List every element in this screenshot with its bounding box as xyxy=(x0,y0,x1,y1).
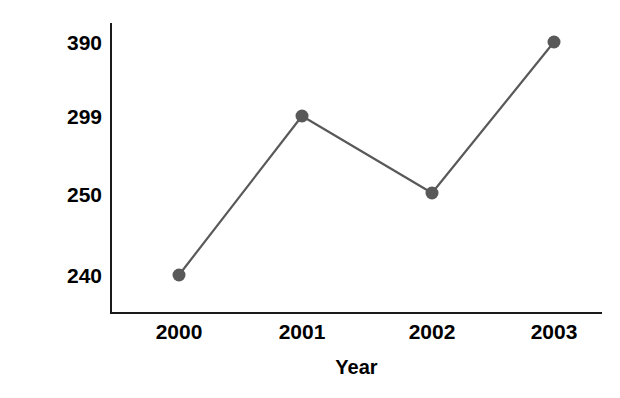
line-chart: Number of Students Voting 390 299 250 24… xyxy=(0,0,620,398)
data-point-markers xyxy=(173,36,561,282)
x-tick-label: 2001 xyxy=(247,321,357,342)
data-point xyxy=(173,269,186,282)
x-tick-label: 2000 xyxy=(124,321,234,342)
x-tick-label: 2002 xyxy=(377,321,487,342)
data-line xyxy=(179,42,554,275)
x-axis-title: Year xyxy=(111,356,602,379)
data-point xyxy=(296,110,309,123)
data-point xyxy=(426,187,439,200)
x-tick-label: 2003 xyxy=(499,321,609,342)
data-point xyxy=(548,36,561,49)
